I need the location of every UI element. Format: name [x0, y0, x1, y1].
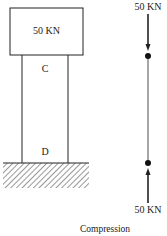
load-block-label: 50 KN — [33, 25, 60, 36]
bottom-force-label: 50 KN — [135, 204, 162, 215]
column-bottom-label: D — [41, 146, 48, 157]
bottom-node-dot — [145, 160, 151, 166]
column-top-label: C — [42, 63, 49, 74]
ground-hatching — [3, 163, 89, 188]
caption: Compression — [80, 224, 130, 234]
top-force-arrowhead — [146, 44, 151, 51]
diagram-canvas: 50 KN C D 50 KN 50 KN Compression — [0, 0, 167, 236]
top-force-label: 50 KN — [135, 1, 162, 12]
